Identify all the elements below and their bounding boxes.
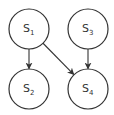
edge-s1-s4 <box>43 43 74 74</box>
graph-diagram: S1S2S3S4 <box>0 0 114 115</box>
node-s1: S1 <box>9 9 49 49</box>
node-s4: S4 <box>68 69 108 109</box>
node-s3: S3 <box>68 9 108 49</box>
edges <box>29 43 88 74</box>
node-s2: S2 <box>9 69 49 109</box>
